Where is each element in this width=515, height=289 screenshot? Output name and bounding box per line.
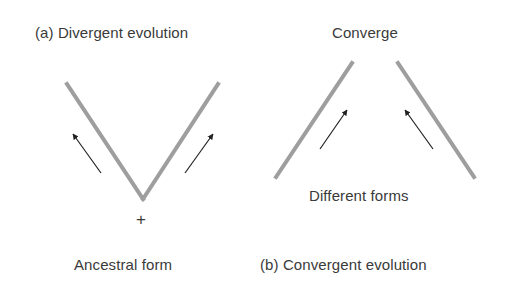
evolution-diagram: [0, 0, 515, 289]
arrow-up-right-icon: [320, 110, 347, 149]
arrow-up-left-icon: [73, 134, 101, 173]
lineage-right-a: [143, 84, 218, 199]
lineage-right-b: [398, 63, 474, 177]
convergent-lineages: [276, 63, 474, 177]
arrow-up-right-icon: [185, 134, 213, 173]
divergent-arrows: [73, 134, 213, 173]
divergent-lineages: [67, 84, 218, 199]
arrow-up-left-icon: [405, 110, 433, 149]
convergent-arrows: [320, 110, 433, 149]
